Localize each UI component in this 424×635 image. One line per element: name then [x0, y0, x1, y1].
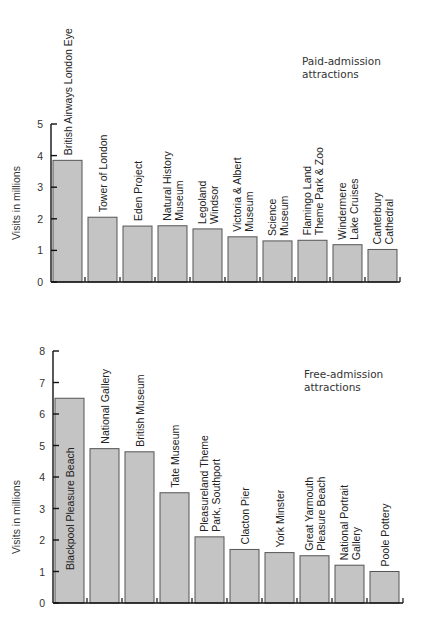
bar — [335, 565, 364, 603]
y-tick-label: 1 — [39, 566, 45, 578]
category-label: Tower of London — [97, 134, 109, 212]
bar — [300, 556, 329, 603]
bar — [193, 229, 222, 282]
category-label: Natural History — [161, 151, 173, 221]
category-label: Lake Cruises — [348, 178, 360, 239]
chart-annotation: attractions — [302, 68, 359, 80]
category-label: Museum — [243, 191, 255, 232]
bar — [158, 226, 187, 282]
category-label: Science — [266, 198, 278, 236]
y-tick-label: 2 — [37, 213, 43, 225]
y-tick-label: 4 — [37, 150, 43, 162]
category-label: Legoland — [196, 181, 208, 224]
y-tick-label: 3 — [37, 181, 43, 193]
y-tick-label: 0 — [37, 276, 43, 288]
category-label: National Gallery — [99, 368, 111, 443]
category-label: Blackpool Pleasure Beach — [64, 447, 76, 570]
y-tick-label: 2 — [39, 534, 45, 546]
category-label: Museum — [173, 180, 185, 221]
bar — [228, 237, 257, 282]
y-tick-label: 3 — [39, 503, 45, 515]
category-label: Pleasure Beach — [315, 476, 327, 550]
y-tick-label: 7 — [39, 377, 45, 389]
bar — [265, 553, 294, 603]
category-label: National Portrait — [338, 485, 350, 560]
free-admission-chart: Blackpool Pleasure BeachNational Gallery… — [0, 320, 424, 635]
category-label: Windsor — [208, 185, 220, 224]
bar — [53, 160, 82, 282]
category-label: Park, Southport — [210, 459, 222, 532]
category-label: Pleasureland Theme — [198, 435, 210, 532]
bar — [195, 537, 224, 603]
bar — [368, 249, 397, 282]
category-label: Cathedral — [383, 199, 395, 245]
category-label: Victoria & Albert — [231, 157, 243, 232]
bar — [125, 452, 154, 603]
paid-admission-chart: British Airways London EyeTower of Londo… — [0, 0, 424, 300]
chart-annotation: Paid-admission — [302, 55, 381, 67]
category-label: Windermere — [336, 182, 348, 239]
bar — [370, 572, 399, 604]
y-axis-label: Visits in millions — [10, 166, 22, 240]
y-tick-label: 1 — [37, 244, 43, 256]
category-label: Museum — [278, 195, 290, 236]
category-label: British Airways London Eye — [62, 28, 74, 155]
free-chart-svg: Blackpool Pleasure BeachNational Gallery… — [0, 320, 424, 635]
y-tick-label: 8 — [39, 345, 45, 357]
y-tick-label: 5 — [37, 118, 43, 130]
category-label: Poole Pottery — [379, 503, 391, 567]
chart-annotation: Free-admission — [304, 368, 383, 380]
chart-annotation: attractions — [304, 381, 361, 393]
y-tick-label: 5 — [39, 440, 45, 452]
bar — [88, 217, 117, 282]
category-label: Tate Museum — [169, 424, 181, 487]
category-label: Clacton Pier — [239, 487, 251, 545]
paid-chart-svg: British Airways London EyeTower of Londo… — [0, 0, 424, 300]
bar — [230, 549, 259, 603]
category-label: British Museum — [134, 374, 146, 447]
bar — [90, 449, 119, 603]
bar — [160, 493, 189, 603]
bar — [123, 226, 152, 282]
category-label: York Minster — [274, 489, 286, 547]
bar — [333, 245, 362, 282]
y-tick-label: 0 — [39, 597, 45, 609]
y-tick-label: 4 — [39, 471, 45, 483]
category-label: Theme Park & Zoo — [313, 147, 325, 235]
category-label: Gallery — [350, 526, 362, 560]
category-label: Great Yarmouth — [303, 477, 315, 551]
category-label: Canterbury — [371, 192, 383, 245]
y-tick-label: 6 — [39, 408, 45, 420]
y-axis-label: Visits in millions — [10, 480, 22, 554]
bar — [298, 240, 327, 282]
category-label: Flamingo Land — [301, 166, 313, 236]
bar — [263, 241, 292, 282]
category-label: Eden Project — [132, 161, 144, 221]
